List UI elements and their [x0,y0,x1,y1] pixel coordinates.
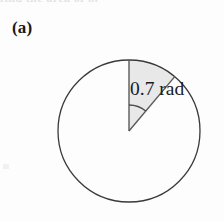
scan-artifact-speck [3,164,9,169]
figure-container: find the area of ... (a) 0.7 rad [0,0,224,221]
circle-sector-diagram: 0.7 rad [0,0,224,221]
angle-label: 0.7 rad [130,78,184,99]
